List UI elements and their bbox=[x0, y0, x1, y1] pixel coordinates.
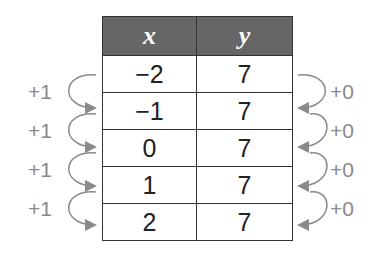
curved-arrows-icon bbox=[0, 0, 383, 258]
